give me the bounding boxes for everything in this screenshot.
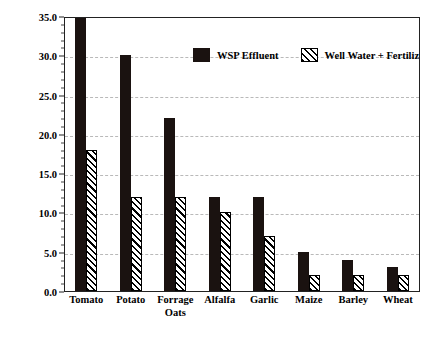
- legend-label-well-water-fertilizer: Well Water + Fertilizer: [325, 50, 420, 61]
- bar-wsp-effluent: [253, 197, 264, 291]
- y-axis-tick-label: 0.0: [44, 287, 57, 298]
- bar-well-water-fertilizer: [220, 212, 231, 291]
- legend-label-wsp-effluent: WSP Effluent: [217, 50, 279, 61]
- y-axis-tick-label: 15.0: [39, 169, 57, 180]
- y-axis-tick-label: 10.0: [39, 208, 57, 219]
- bar-wsp-effluent: [387, 267, 398, 291]
- bar-wsp-effluent: [164, 118, 175, 291]
- x-axis-tick-label: Tomato: [64, 294, 109, 307]
- x-axis-tick-label: Wheat: [376, 294, 421, 307]
- bar-group: [120, 18, 142, 291]
- x-axis-tick-label: Garlic: [242, 294, 287, 307]
- y-axis-tick-label: 30.0: [39, 51, 57, 62]
- bar-well-water-fertilizer: [264, 236, 275, 291]
- legend-swatch-hatch-icon: [301, 48, 318, 62]
- bar-wsp-effluent: [120, 55, 131, 291]
- x-axis-tick-label: Barley: [331, 294, 376, 307]
- bar-well-water-fertilizer: [131, 197, 142, 291]
- bar-group: [164, 18, 186, 291]
- bar-wsp-effluent: [342, 260, 353, 291]
- bar-well-water-fertilizer: [353, 275, 364, 291]
- bar-wsp-effluent: [75, 17, 86, 291]
- x-axis-tick-label: Forrage Oats: [153, 294, 198, 319]
- bar-well-water-fertilizer: [86, 150, 97, 291]
- x-axis-tick-label: Potato: [109, 294, 154, 307]
- y-axis-tick-label: 20.0: [39, 129, 57, 140]
- bar-wsp-effluent: [298, 252, 309, 291]
- chart-legend: WSP Effluent Well Water + Fertilizer: [193, 48, 420, 62]
- bar-group: [75, 18, 97, 291]
- plot-area: WSP Effluent Well Water + Fertilizer: [64, 17, 420, 292]
- legend-entry-well-water-fertilizer: Well Water + Fertilizer: [301, 48, 420, 62]
- bar-well-water-fertilizer: [398, 275, 409, 291]
- legend-entry-wsp-effluent: WSP Effluent: [193, 48, 279, 62]
- legend-swatch-solid-icon: [193, 48, 210, 62]
- x-axis-tick-label: Maize: [287, 294, 332, 307]
- bar-well-water-fertilizer: [309, 275, 320, 291]
- chart-figure: Yield, tonnes/ha-yr 0.05.010.015.020.025…: [0, 0, 439, 338]
- y-axis-tick-label: 25.0: [39, 90, 57, 101]
- bar-wsp-effluent: [209, 197, 220, 291]
- bar-well-water-fertilizer: [175, 197, 186, 291]
- y-axis-ticks: 0.05.010.015.020.025.030.035.0: [0, 17, 64, 292]
- y-axis-tick-label: 35.0: [39, 12, 57, 23]
- y-axis-tick-label: 5.0: [44, 247, 57, 258]
- x-axis-labels: TomatoPotatoForrage OatsAlfalfaGarlicMai…: [64, 294, 420, 336]
- x-axis-tick-label: Alfalfa: [198, 294, 243, 307]
